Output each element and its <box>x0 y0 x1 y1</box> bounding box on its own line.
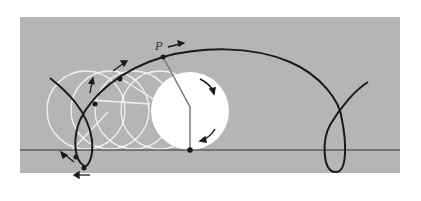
trochoid-diagram <box>0 0 421 201</box>
point-p-label: P <box>155 40 162 53</box>
point-p <box>161 55 166 60</box>
contact-point <box>187 147 193 153</box>
